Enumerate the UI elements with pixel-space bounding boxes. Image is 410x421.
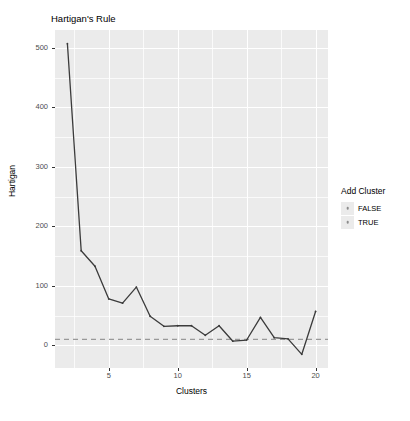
- data-point: [246, 339, 248, 341]
- data-point: [260, 317, 262, 319]
- data-point: [232, 340, 234, 342]
- data-point: [301, 353, 303, 355]
- hartigans-rule-chart: Hartigan's Rule Hartigan 010020030040050…: [0, 0, 410, 421]
- plot-series-layer: [55, 30, 328, 368]
- data-point: [80, 250, 82, 252]
- x-tick-mark: [316, 368, 317, 371]
- y-tick-label: 500: [0, 44, 48, 52]
- legend-title: Add Cluster: [341, 186, 385, 196]
- legend: Add Cluster FALSETRUE: [341, 186, 385, 229]
- data-point: [218, 325, 220, 327]
- y-tick-label: 200: [0, 222, 48, 230]
- data-point: [315, 311, 317, 313]
- y-tick-label: 100: [0, 282, 48, 290]
- legend-key-swatch: [341, 216, 354, 229]
- legend-key-swatch: [341, 202, 354, 215]
- chart-title: Hartigan's Rule: [51, 13, 116, 25]
- data-point: [191, 325, 193, 327]
- legend-point-icon: [346, 221, 349, 224]
- data-point: [67, 43, 69, 45]
- legend-label: FALSE: [358, 204, 381, 213]
- hartigan-line-series: [67, 44, 315, 355]
- data-point: [149, 315, 151, 317]
- plot-panel: [55, 30, 328, 368]
- data-point: [287, 338, 289, 340]
- legend-items: FALSETRUE: [341, 201, 385, 229]
- y-tick-label: 0: [0, 341, 48, 349]
- x-tick-mark: [109, 368, 110, 371]
- y-tick-label: 300: [0, 163, 48, 171]
- data-point: [94, 265, 96, 267]
- legend-label: TRUE: [358, 218, 378, 227]
- data-point: [273, 337, 275, 339]
- data-point: [108, 298, 110, 300]
- x-tick-label: 5: [89, 372, 129, 380]
- data-point: [135, 286, 137, 288]
- x-axis-title: Clusters: [55, 386, 328, 396]
- data-point: [163, 325, 165, 327]
- data-point: [122, 302, 124, 304]
- legend-item-true[interactable]: TRUE: [341, 215, 385, 229]
- x-tick-mark: [178, 368, 179, 371]
- x-tick-mark: [247, 368, 248, 371]
- x-tick-label: 20: [296, 372, 336, 380]
- legend-point-icon: [346, 207, 349, 210]
- x-tick-label: 15: [227, 372, 267, 380]
- data-point: [204, 334, 206, 336]
- legend-item-false[interactable]: FALSE: [341, 201, 385, 215]
- x-tick-label: 10: [158, 372, 198, 380]
- data-point: [177, 325, 179, 327]
- hartigan-data-points: [67, 43, 317, 355]
- y-tick-label: 400: [0, 103, 48, 111]
